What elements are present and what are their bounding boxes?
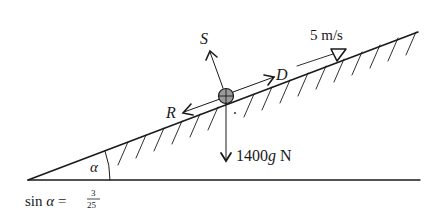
weight-label: 1400g N bbox=[236, 147, 292, 165]
angle-arc bbox=[105, 151, 110, 180]
body-particle bbox=[219, 89, 234, 104]
fraction-denominator: 25 bbox=[87, 200, 97, 210]
velocity-label: 5 m/s bbox=[310, 27, 343, 43]
marker-dot bbox=[234, 112, 236, 114]
velocity-arrow bbox=[297, 49, 346, 66]
resistance-arrow bbox=[183, 99, 220, 115]
resistance-label: R bbox=[165, 104, 176, 121]
weight-arrow bbox=[221, 103, 231, 161]
inclined-plane-diagram: α R D S 1400g N 5 m/s sin α = 3 25 bbox=[0, 0, 437, 218]
fraction-numerator: 3 bbox=[91, 188, 96, 198]
normal-reaction-arrow bbox=[206, 51, 223, 88]
svg-text:sin α =: sin α = bbox=[25, 193, 66, 209]
sine-formula: sin α = 3 25 bbox=[25, 188, 100, 210]
angle-label: α bbox=[90, 159, 99, 175]
slope-hatching bbox=[118, 32, 416, 165]
normal-reaction-label: S bbox=[200, 30, 208, 47]
driving-force-label: D bbox=[275, 66, 288, 83]
